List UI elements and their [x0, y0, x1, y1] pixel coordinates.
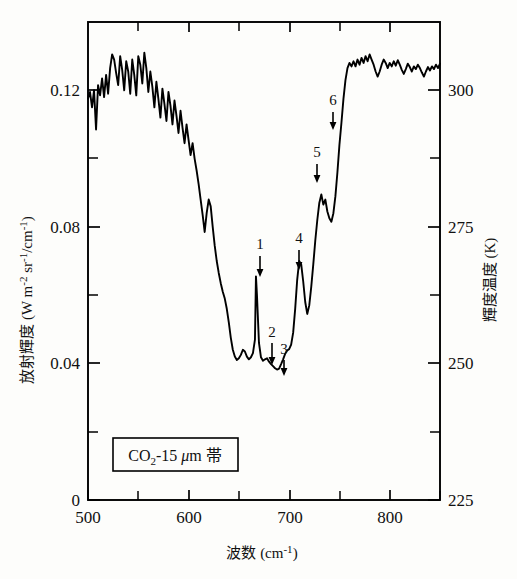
annotation-5-label: 5: [313, 144, 321, 160]
inset-text-pre: CO: [128, 447, 150, 464]
y-axis-unit-sup1: -2: [17, 277, 29, 286]
svg-text:放射輝度 (W m-2 sr-1/cm-1): 放射輝度 (W m-2 sr-1/cm-1): [17, 216, 36, 384]
x-tick-label-700: 700: [277, 508, 303, 527]
x-axis-unit-sup: -1: [283, 543, 292, 555]
x-tick-label-800: 800: [377, 508, 403, 527]
co2-spectrum-figure: 500 600 700 800 0 0.04 0.08 0.12 225 250…: [0, 0, 517, 579]
x-axis-unit-open: (cm: [260, 545, 284, 562]
inset-text-unit: m 帯: [189, 447, 221, 464]
y2-tick-label-250: 250: [448, 354, 474, 373]
y-tick-label-012: 0.12: [50, 81, 80, 100]
y-tick-label-0: 0: [72, 491, 81, 510]
y-axis-unit-mid: sr: [19, 262, 35, 277]
inset-text-mu: μ: [180, 447, 189, 465]
annotation-2-label: 2: [268, 324, 276, 340]
y-tick-label-008: 0.08: [50, 218, 80, 237]
annotation-6-label: 6: [329, 92, 337, 108]
y-axis-unit-sup2: -1: [17, 253, 29, 262]
y2-tick-label-300: 300: [448, 81, 474, 100]
annotation-4-label: 4: [295, 230, 303, 246]
svg-text:輝度温度 (K): 輝度温度 (K): [482, 238, 499, 323]
annotation-1-label: 1: [256, 236, 264, 252]
y-axis-unit-end: ): [19, 216, 36, 221]
y2-tick-label-225: 225: [448, 491, 474, 510]
y-axis-title-main: 放射輝度: [19, 324, 35, 384]
y-axis-unit-sup3: -1: [17, 221, 29, 230]
y-axis-unit-open: (W m: [19, 285, 36, 320]
x-axis-unit-close: ): [293, 545, 298, 562]
y2-axis-title-unit: (K): [482, 238, 499, 259]
y-axis-title: 放射輝度 (W m-2 sr-1/cm-1): [17, 216, 36, 384]
y2-axis-title: 輝度温度 (K): [482, 238, 499, 323]
y2-tick-label-275: 275: [448, 218, 474, 237]
x-axis-title-main: 波数: [226, 545, 256, 561]
y2-axis-title-main: 輝度温度: [482, 262, 498, 322]
x-tick-label-500: 500: [75, 508, 101, 527]
inset-text-post: -15: [156, 447, 181, 464]
y-tick-label-004: 0.04: [50, 354, 80, 373]
y-axis-unit-close: /cm: [19, 230, 35, 253]
annotation-3-label: 3: [280, 341, 288, 357]
x-tick-label-600: 600: [176, 508, 202, 527]
